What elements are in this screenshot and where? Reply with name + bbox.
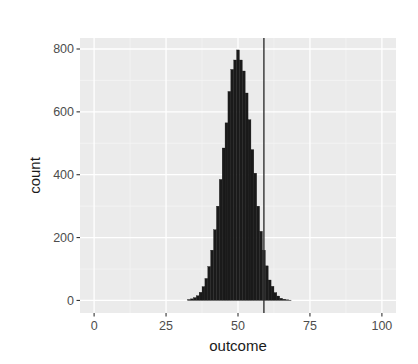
histogram-bar (283, 299, 286, 300)
histogram-bar (188, 299, 191, 300)
histogram-chart: 0255075100 0200400600800 outcome count (0, 0, 418, 364)
histogram-bar (254, 173, 257, 300)
y-tick-label: 400 (53, 168, 74, 182)
histogram-bar (260, 231, 263, 300)
histogram-bar (193, 298, 196, 301)
histogram-bar (274, 293, 277, 301)
histogram-bar (216, 206, 219, 300)
y-tick-label: 600 (53, 105, 74, 119)
y-tick-label: 200 (53, 231, 74, 245)
x-tick-label: 100 (371, 319, 392, 333)
y-tick-label: 0 (67, 294, 74, 308)
histogram-bar (265, 266, 268, 301)
x-axis-title: outcome (209, 337, 267, 354)
histogram-bar (202, 287, 205, 301)
histogram-bar (257, 206, 260, 300)
histogram-bar (251, 150, 254, 301)
histogram-bar (245, 93, 248, 300)
histogram-bar (280, 298, 283, 300)
histogram-bar (239, 60, 242, 300)
histogram-bar (199, 292, 202, 300)
x-axis: 0255075100 (91, 313, 393, 333)
histogram-bar (208, 266, 211, 300)
y-axis: 0200400600800 (53, 42, 80, 307)
histogram-bar (248, 120, 251, 301)
histogram-bar (271, 286, 274, 300)
histogram-bar (205, 278, 208, 300)
x-tick-label: 0 (91, 319, 98, 333)
histogram-bar (268, 280, 271, 300)
histogram-bar (231, 69, 234, 300)
histogram-bar (191, 299, 194, 301)
histogram-bar (234, 60, 237, 300)
x-tick-label: 75 (303, 319, 317, 333)
y-tick-label: 800 (53, 42, 74, 56)
histogram-bar (222, 148, 225, 300)
y-axis-title: count (26, 156, 43, 194)
histogram-bar (225, 123, 228, 301)
histogram-bar (196, 296, 199, 301)
x-tick-label: 25 (159, 319, 173, 333)
plot-canvas: 0255075100 0200400600800 outcome count (0, 0, 418, 364)
histogram-bar (228, 91, 231, 300)
histogram-bar (214, 230, 217, 301)
histogram-bar (277, 296, 280, 300)
histogram-bar (211, 250, 214, 300)
x-tick-label: 50 (231, 319, 245, 333)
histogram-bar (237, 50, 240, 300)
histogram-bar (219, 179, 222, 300)
histogram-bar (242, 71, 245, 300)
histogram-bar (285, 300, 288, 301)
